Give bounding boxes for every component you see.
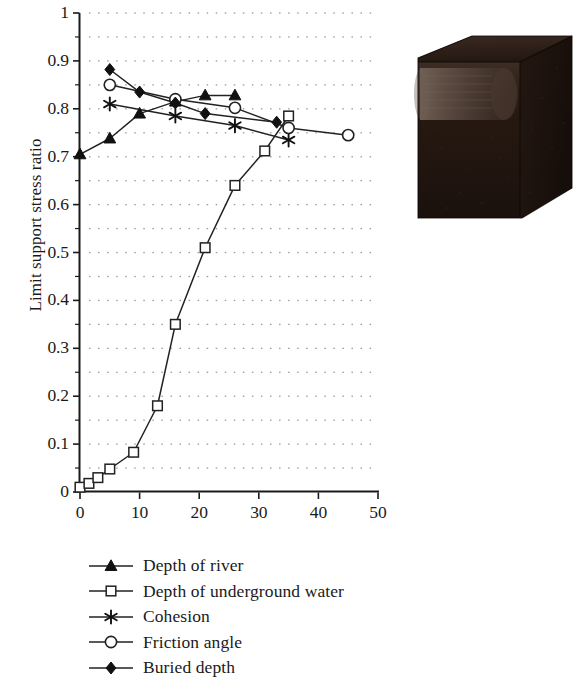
x-tick-label: 0	[60, 502, 100, 523]
y-tick-label: 0.5	[27, 242, 69, 263]
y-tick-label: 0.2	[27, 385, 69, 406]
series-layer	[74, 64, 354, 492]
legend-item-3: Friction angle	[88, 630, 418, 656]
legend-label: Buried depth	[143, 657, 235, 678]
legend-item-1: Depth of underground water	[88, 579, 418, 605]
y-tick-label: 0.9	[27, 50, 69, 71]
chart-legend: Depth of riverDepth of underground water…	[88, 553, 418, 681]
y-tick-label: 0.1	[27, 433, 69, 454]
legend-item-0: Depth of river	[88, 553, 418, 579]
legend-label: Depth of river	[143, 555, 244, 576]
series-1	[80, 116, 289, 487]
y-tick-label: 0	[27, 481, 69, 502]
y-tick-label: 0.7	[27, 146, 69, 167]
legend-marker-asterisk	[88, 606, 134, 628]
figure-container: Limit support stress ratio 00.10.20.30.4…	[0, 0, 578, 685]
y-tick-label: 1	[27, 2, 69, 23]
legend-marker-filled-triangle	[88, 555, 134, 577]
soil-block-graphic	[412, 28, 578, 224]
legend-item-4: Buried depth	[88, 655, 418, 681]
legend-marker-filled-diamond	[88, 657, 134, 679]
y-tick-label: 0.8	[27, 98, 69, 119]
legend-label: Depth of underground water	[143, 581, 344, 602]
x-tick-label: 20	[179, 502, 219, 523]
y-tick-label: 0.6	[27, 194, 69, 215]
axis-ticks	[73, 13, 378, 499]
y-tick-label: 0.3	[27, 337, 69, 358]
x-tick-label: 30	[239, 502, 279, 523]
x-tick-label: 10	[120, 502, 160, 523]
soil-block-photo	[412, 28, 578, 224]
legend-label: Friction angle	[143, 632, 242, 653]
legend-marker-open-square	[88, 580, 134, 602]
series-markers-2	[104, 97, 294, 146]
legend-label: Cohesion	[143, 606, 210, 627]
x-tick-label: 40	[298, 502, 338, 523]
legend-item-2: Cohesion	[88, 604, 418, 630]
chart-area: Limit support stress ratio 00.10.20.30.4…	[0, 0, 400, 530]
grid-dots	[89, 12, 371, 468]
series-markers-0	[74, 89, 241, 159]
legend-marker-open-circle	[88, 631, 134, 653]
x-tick-label: 50	[358, 502, 398, 523]
y-tick-label: 0.4	[27, 289, 69, 310]
